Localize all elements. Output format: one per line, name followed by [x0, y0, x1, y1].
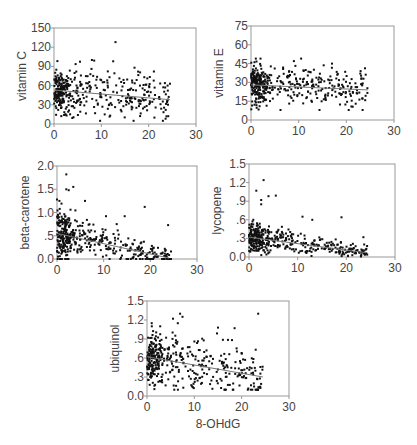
y-tick-label: 30 — [235, 75, 249, 89]
y-tick-label: 1.2 — [229, 176, 246, 190]
y-tick-label: 15 — [235, 94, 249, 108]
x-tick-label: 30 — [388, 261, 402, 275]
y-tick-label: 120 — [31, 40, 51, 54]
y-tick-label: 1.0 — [37, 206, 54, 220]
x-tick-label: 30 — [387, 124, 401, 138]
scatter-panel-beta-carotene: 0.0.51.01.52.00102030beta-carotene — [18, 159, 204, 277]
y-tick-label: .9 — [236, 194, 246, 208]
scatter-panel-vitamin-E: 015304560750102030vitamin E — [212, 19, 401, 138]
x-tick-label: 20 — [340, 261, 354, 275]
y-tick-label: 1.5 — [229, 157, 246, 171]
scatter-panel-vitamin-C: 03060901201500102030vitamin C — [15, 21, 203, 142]
y-axis-label: vitamin E — [212, 48, 226, 97]
y-tick-label: .6 — [236, 213, 246, 227]
scatter-panel-ubiquinol: 0.0.3.6.91.21.50102030ubiquinol8-OHdG — [108, 294, 296, 431]
x-tick-label: 0 — [54, 263, 61, 277]
data-points — [146, 313, 264, 391]
y-tick-label: 90 — [38, 59, 52, 73]
x-tick-label: 0 — [246, 261, 253, 275]
x-tick-label: 10 — [95, 128, 109, 142]
y-axis-label: vitamin C — [15, 51, 29, 101]
trend-line — [54, 90, 170, 100]
y-tick-label: .5 — [44, 229, 54, 243]
data-points — [250, 58, 368, 111]
trend-line — [251, 85, 368, 90]
y-tick-label: 75 — [235, 19, 249, 33]
y-tick-label: 30 — [38, 98, 52, 112]
plot-frame — [54, 28, 196, 124]
y-axis-label: lycopene — [210, 186, 224, 234]
plot-frame — [249, 164, 395, 257]
x-tick-label: 10 — [188, 400, 202, 414]
y-tick-label: 1.5 — [37, 182, 54, 196]
data-points — [56, 173, 172, 260]
y-tick-label: 2.0 — [37, 159, 54, 173]
y-axis-label: ubiquinol — [108, 324, 122, 372]
data-points — [248, 179, 368, 257]
y-tick-label: 0.0 — [127, 389, 144, 403]
y-tick-label: 60 — [38, 79, 52, 93]
y-tick-label: 1.5 — [127, 294, 144, 308]
scatter-matrix: 03060901201500102030vitamin C01530456075… — [0, 0, 417, 445]
y-axis-label: beta-carotene — [18, 175, 32, 249]
y-tick-label: 1.2 — [127, 313, 144, 327]
x-tick-label: 0 — [248, 124, 255, 138]
x-tick-label: 20 — [235, 400, 249, 414]
x-tick-label: 20 — [144, 263, 158, 277]
data-points — [53, 41, 171, 122]
y-tick-label: 60 — [235, 38, 249, 52]
y-tick-label: .3 — [236, 231, 246, 245]
x-tick-label: 20 — [340, 124, 354, 138]
y-tick-label: 45 — [235, 57, 249, 71]
y-tick-label: .9 — [134, 332, 144, 346]
plot-frame — [251, 26, 394, 120]
y-tick-label: 0.0 — [37, 252, 54, 266]
y-tick-label: .3 — [134, 370, 144, 384]
x-tick-label: 30 — [282, 400, 296, 414]
x-tick-label: 30 — [190, 263, 204, 277]
x-tick-label: 0 — [51, 128, 58, 142]
y-tick-label: 150 — [31, 21, 51, 35]
x-tick-label: 10 — [97, 263, 111, 277]
x-tick-label: 10 — [291, 261, 305, 275]
x-tick-label: 30 — [189, 128, 203, 142]
x-tick-label: 0 — [144, 400, 151, 414]
x-tick-label: 10 — [292, 124, 306, 138]
y-tick-label: .6 — [134, 351, 144, 365]
scatter-panel-lycopene: 0.0.3.6.91.21.50102030lycopene — [210, 157, 402, 275]
x-axis-label: 8-OHdG — [196, 417, 241, 431]
x-tick-label: 20 — [142, 128, 156, 142]
y-tick-label: 0.0 — [229, 250, 246, 264]
